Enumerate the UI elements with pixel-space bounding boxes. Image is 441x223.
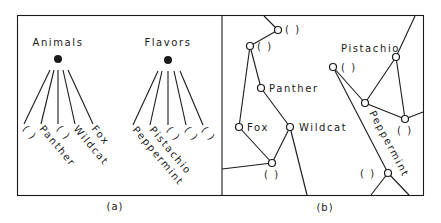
edge [150, 71, 162, 125]
node-pistachio [393, 54, 400, 61]
panel-a: Animals ( ) Panther ( ) Wildcat Fox Flav… [20, 37, 218, 212]
node-label-fox: Fox [247, 122, 269, 133]
node-label: ( ) [257, 41, 273, 52]
group-title-flavors: Flavors [144, 37, 191, 48]
edge [272, 127, 290, 163]
node [402, 116, 409, 123]
caption-b: (b) [316, 202, 333, 213]
caption-a: (a) [107, 201, 124, 212]
node-label: ( ) [264, 169, 280, 180]
edge [24, 70, 50, 124]
node-label: ( ) [360, 168, 376, 179]
edge [133, 71, 158, 125]
node [385, 170, 392, 177]
node-label: ( ) [341, 62, 357, 73]
panel-b: ( ) ( ) Panther Fox Wildcat ( ) Pistachi… [222, 16, 423, 213]
edge [41, 70, 54, 124]
node [269, 160, 276, 167]
root-node-animals [54, 55, 62, 63]
edge [174, 71, 186, 125]
edge [180, 71, 203, 125]
edge [239, 46, 250, 127]
node-peppermint [362, 100, 369, 107]
node [330, 64, 337, 71]
edge [396, 57, 405, 119]
edge [290, 127, 307, 195]
group-title-animals: Animals [32, 37, 83, 48]
node-panther [258, 85, 265, 92]
node [247, 43, 254, 50]
root-node-flavors [164, 56, 172, 64]
edge [365, 57, 396, 103]
node-wildcat [287, 124, 294, 131]
leaf-label: ( ) [20, 123, 39, 142]
node-label: ( ) [397, 125, 413, 136]
node-label-panther: Panther [269, 83, 319, 94]
figure: Animals ( ) Panther ( ) Wildcat Fox Flav… [0, 0, 441, 223]
edge [63, 70, 75, 124]
node-label-wildcat: Wildcat [299, 122, 347, 133]
edge [68, 70, 93, 124]
leaf-label: ( ) [182, 124, 201, 143]
node-label-pistachio: Pistachio [341, 43, 400, 54]
node [275, 27, 282, 34]
node-label: ( ) [285, 24, 301, 35]
edge [250, 46, 261, 88]
node-fox [236, 124, 243, 131]
leaf-label: ( ) [199, 124, 218, 143]
